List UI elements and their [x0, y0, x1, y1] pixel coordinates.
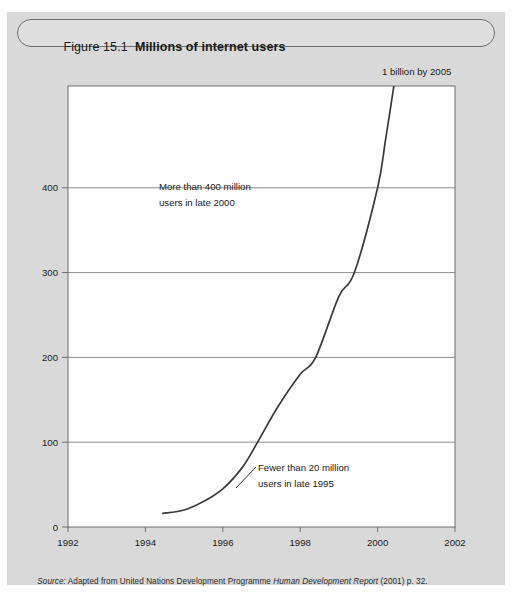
source-prefix: Source: [37, 577, 66, 586]
y-tick-label-200: 200 [42, 352, 58, 363]
x-tick-label-1998: 1998 [290, 537, 311, 548]
x-tick-label-2000: 2000 [367, 537, 388, 548]
annotation-400-million-line2: users in late 2000 [159, 197, 235, 208]
x-tick-label-2002: 2002 [444, 537, 465, 548]
plot-background [68, 86, 455, 527]
figure-panel: Figure 15.1 Millions of internet users 1… [7, 12, 505, 585]
x-tick-label-1994: 1994 [135, 537, 157, 548]
y-tick-label-100: 100 [42, 437, 58, 448]
y-axis-ticks [62, 188, 68, 527]
annotation-400-million-line1: More than 400 million [159, 181, 251, 192]
internet-users-line-chart: 199219941996199820002002 0100200300400 1… [7, 12, 505, 585]
annotation-1-billion: 1 billion by 2005 [382, 66, 451, 77]
y-tick-label-0: 0 [53, 522, 58, 533]
chart-area: 199219941996199820002002 0100200300400 1… [7, 12, 505, 585]
y-axis-tick-labels: 0100200300400 [42, 182, 58, 532]
annotation-20-million-line2: users in late 1995 [258, 478, 334, 489]
source-title-italic: Human Development Report [273, 577, 378, 586]
x-axis-ticks [68, 527, 455, 532]
y-tick-label-400: 400 [42, 182, 58, 193]
y-tick-label-300: 300 [42, 267, 58, 278]
annotation-20-million-line1: Fewer than 20 million [258, 462, 349, 473]
x-axis-tick-labels: 199219941996199820002002 [57, 537, 465, 548]
source-body-2: (2001) p. 32. [378, 577, 427, 586]
x-tick-label-1992: 1992 [57, 537, 78, 548]
x-tick-label-1996: 1996 [212, 537, 233, 548]
source-note: Source: Adapted from United Nations Deve… [28, 568, 428, 595]
source-body-1: Adapted from United Nations Development … [66, 577, 273, 586]
